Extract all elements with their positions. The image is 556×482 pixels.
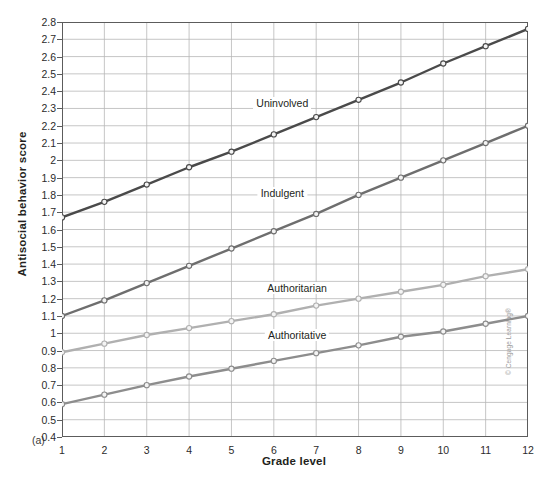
y-tick-label: 1.1 bbox=[12, 310, 56, 322]
x-tick-label: 12 bbox=[513, 444, 543, 456]
y-tick-mark bbox=[57, 22, 62, 23]
x-tick-label: 8 bbox=[344, 444, 374, 456]
x-tick-label: 7 bbox=[301, 444, 331, 456]
y-tick-mark bbox=[57, 160, 62, 161]
y-tick-mark bbox=[57, 195, 62, 196]
chart-svg bbox=[62, 22, 528, 437]
y-tick-label: 1.6 bbox=[12, 224, 56, 236]
y-tick-label: 0.7 bbox=[12, 379, 56, 391]
y-tick-label: 1.2 bbox=[12, 293, 56, 305]
series-label-indulgent: Indulgent bbox=[258, 187, 307, 199]
y-tick-label: 1.5 bbox=[12, 241, 56, 253]
y-tick-mark bbox=[57, 39, 62, 40]
series-authoritative bbox=[62, 313, 528, 406]
y-tick-label: 1 bbox=[12, 327, 56, 339]
y-tick-label: 0.8 bbox=[12, 362, 56, 374]
y-tick-mark bbox=[57, 437, 62, 438]
line-chart-plot: 0.40.50.60.70.80.911.11.21.31.41.51.61.7… bbox=[62, 22, 528, 437]
y-tick-mark bbox=[57, 299, 62, 300]
y-tick-label: 2.1 bbox=[12, 137, 56, 149]
y-tick-label: 2.7 bbox=[12, 33, 56, 45]
x-tick-label: 1 bbox=[47, 444, 77, 456]
y-tick-label: 0.6 bbox=[12, 396, 56, 408]
y-tick-label: 0.5 bbox=[12, 414, 56, 426]
series-label-authoritarian: Authoritarian bbox=[264, 282, 330, 294]
x-tick-label: 5 bbox=[216, 444, 246, 456]
y-tick-mark bbox=[57, 91, 62, 92]
y-tick-label: 1.7 bbox=[12, 206, 56, 218]
y-tick-label: 2.2 bbox=[12, 120, 56, 132]
x-tick-label: 3 bbox=[132, 444, 162, 456]
y-tick-mark bbox=[57, 212, 62, 213]
y-tick-label: 1.8 bbox=[12, 189, 56, 201]
y-tick-label: 0.4 bbox=[12, 431, 56, 443]
y-tick-mark bbox=[57, 420, 62, 421]
y-tick-mark bbox=[57, 108, 62, 109]
y-tick-label: 2.8 bbox=[12, 16, 56, 28]
y-tick-mark bbox=[57, 57, 62, 58]
y-tick-mark bbox=[57, 281, 62, 282]
y-tick-mark bbox=[57, 126, 62, 127]
y-tick-label: 1.4 bbox=[12, 258, 56, 270]
y-tick-mark bbox=[57, 333, 62, 334]
series-authoritarian bbox=[62, 267, 528, 355]
y-tick-label: 2.3 bbox=[12, 102, 56, 114]
y-tick-mark bbox=[57, 247, 62, 248]
figure-panel-a: Antisocial behavior score Grade level (a… bbox=[0, 0, 556, 482]
y-tick-mark bbox=[57, 385, 62, 386]
y-axis-title: Antisocial behavior score bbox=[16, 104, 28, 304]
x-tick-label: 4 bbox=[174, 444, 204, 456]
y-tick-label: 2.5 bbox=[12, 68, 56, 80]
x-tick-label: 10 bbox=[428, 444, 458, 456]
y-tick-label: 2 bbox=[12, 154, 56, 166]
y-tick-label: 2.4 bbox=[12, 85, 56, 97]
y-tick-label: 1.3 bbox=[12, 275, 56, 287]
y-tick-mark bbox=[57, 368, 62, 369]
x-tick-label: 6 bbox=[259, 444, 289, 456]
y-tick-mark bbox=[57, 316, 62, 317]
series-label-uninvolved: Uninvolved bbox=[253, 97, 311, 109]
y-tick-mark bbox=[57, 143, 62, 144]
y-tick-mark bbox=[57, 264, 62, 265]
y-tick-label: 0.9 bbox=[12, 345, 56, 357]
y-tick-mark bbox=[57, 230, 62, 231]
y-tick-mark bbox=[57, 351, 62, 352]
y-tick-label: 1.9 bbox=[12, 172, 56, 184]
y-tick-mark bbox=[57, 74, 62, 75]
y-tick-label: 2.6 bbox=[12, 51, 56, 63]
y-tick-mark bbox=[57, 178, 62, 179]
x-tick-label: 2 bbox=[89, 444, 119, 456]
x-tick-label: 11 bbox=[471, 444, 501, 456]
x-axis-title: Grade level bbox=[60, 455, 528, 467]
x-tick-label: 9 bbox=[386, 444, 416, 456]
series-label-authoritative: Authoritative bbox=[265, 329, 329, 341]
y-tick-mark bbox=[57, 402, 62, 403]
